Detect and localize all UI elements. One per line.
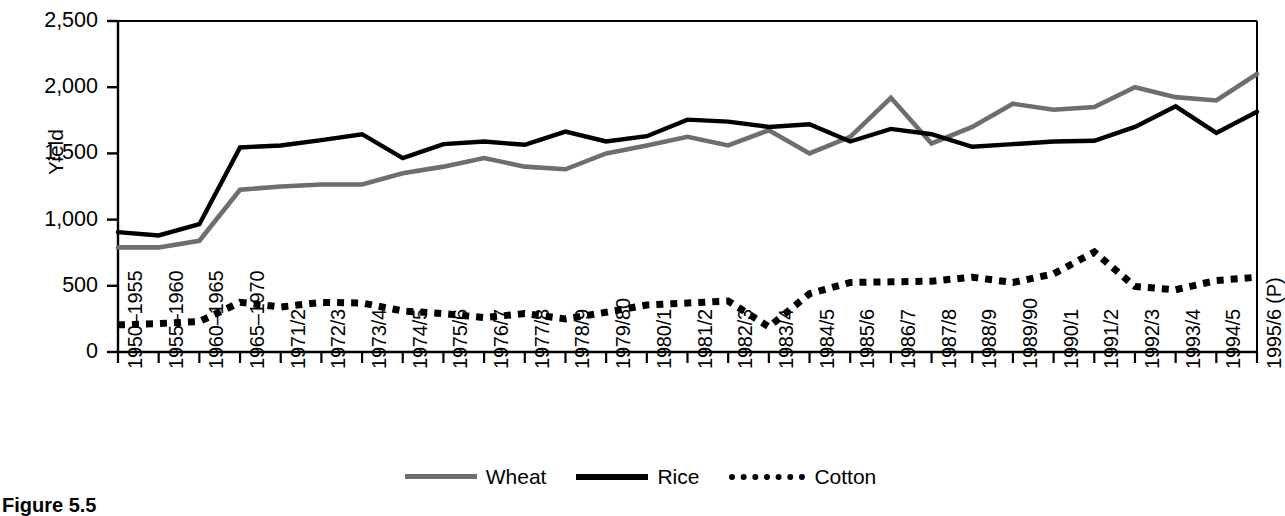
- x-axis-tick-label: 1995/6 (P): [1264, 278, 1284, 369]
- legend-item-rice[interactable]: Rice: [576, 466, 699, 487]
- x-axis-tick-label: 1965–1970: [247, 271, 267, 369]
- x-axis-tick-label: 1979/80: [613, 298, 633, 369]
- y-axis-title: Yield: [44, 92, 68, 212]
- legend-swatch-wheat-icon: [405, 474, 477, 479]
- x-axis-tick-label: 1994/5: [1223, 309, 1243, 369]
- axes-layer: [107, 21, 1257, 363]
- legend-item-cotton[interactable]: Cotton: [729, 466, 876, 487]
- x-axis-tick-label: 1993/4: [1183, 309, 1203, 369]
- y-axis-tick-label: 500: [14, 275, 98, 297]
- x-axis-tick-label: 1975/6: [450, 309, 470, 369]
- x-axis-tick-label: 1973/4: [369, 309, 389, 369]
- y-axis-tick-label: 0: [14, 341, 98, 363]
- x-axis-tick-label: 1992/3: [1142, 309, 1162, 369]
- x-axis-tick-label: 1950–1955: [125, 271, 145, 369]
- legend-label-cotton: Cotton: [814, 466, 876, 487]
- x-axis-tick-label: 1987/8: [939, 309, 959, 369]
- x-axis-tick-label: 1972/3: [328, 309, 348, 369]
- legend-swatch-cotton-icon: [729, 474, 805, 480]
- x-axis-tick-label: 1980/1: [654, 309, 674, 369]
- y-axis-tick-labels: 05001,0001,5002,0002,500: [0, 0, 98, 510]
- x-axis-tick-label: 1989/90: [1020, 298, 1040, 369]
- x-axis-tick-label: 1991/2: [1101, 309, 1121, 369]
- x-axis-tick-label: 1982/3: [735, 309, 755, 369]
- legend-swatch-rice-icon: [576, 474, 648, 480]
- figure-caption: Figure 5.5: [2, 495, 96, 515]
- legend-item-wheat[interactable]: Wheat: [405, 466, 547, 487]
- chart-legend: Wheat Rice Cotton: [0, 466, 1281, 487]
- x-axis-tick-label: 1983/4: [776, 309, 796, 369]
- x-axis-tick-label: 1976/7: [491, 309, 511, 369]
- legend-label-wheat: Wheat: [486, 466, 547, 487]
- x-axis-tick-label: 1990/1: [1061, 309, 1081, 369]
- x-axis-tick-label: 1974/5: [410, 309, 430, 369]
- x-axis-tick-label: 1977/8: [532, 309, 552, 369]
- x-axis-tick-label: 1978/9: [572, 309, 592, 369]
- x-axis-tick-label: 1988/9: [979, 309, 999, 369]
- x-axis-tick-label: 1985/6: [857, 309, 877, 369]
- series-line-rice: [118, 106, 1257, 235]
- x-axis-tick-label: 1986/7: [898, 309, 918, 369]
- x-axis-tick-label: 1960–1965: [206, 271, 226, 369]
- x-axis-tick-label: 1971/2: [288, 309, 308, 369]
- legend-label-rice: Rice: [657, 466, 699, 487]
- series-layer: [118, 74, 1257, 327]
- y-axis-tick-label: 2,500: [14, 10, 98, 32]
- x-axis-tick-label: 1984/5: [817, 309, 837, 369]
- series-line-wheat: [118, 74, 1257, 247]
- x-axis-tick-label: 1955–1960: [166, 271, 186, 369]
- x-axis-tick-label: 1981/2: [695, 309, 715, 369]
